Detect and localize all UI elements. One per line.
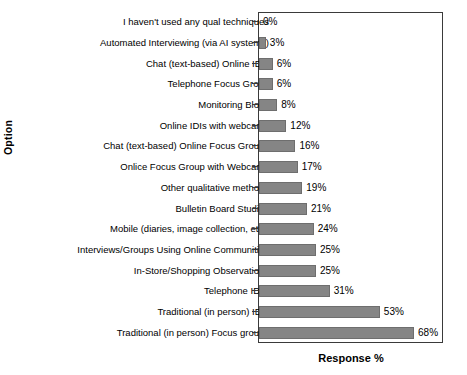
bar [259,182,302,194]
bar-value-label: 53% [384,302,404,322]
axis-tick [252,42,258,43]
bar-chart-figure: Option I haven't used any qual technique… [0,0,467,375]
category-label: Traditional (in person) Focus groups [19,323,269,343]
bar-value-label: 16% [299,136,319,156]
axis-tick [252,311,258,312]
bar-value-label: 6% [277,74,291,94]
axis-tick [252,332,258,333]
category-label: Other qualitative methods [19,178,269,198]
bar-value-label: 17% [302,157,322,177]
category-label: Mobile (diaries, image collection, etc.) [19,219,269,239]
category-label: Monitoring Blogs [19,95,269,115]
bar-row: Traditional (in person) IDIs53% [0,302,467,322]
category-label: In-Store/Shopping Observations [19,261,269,281]
bar-value-label: 31% [334,281,354,301]
category-label: Chat (text-based) Online Focus Groups [19,136,269,156]
bar-value-label: 0% [263,12,277,32]
axis-tick [252,187,258,188]
bar-row: Monitoring Blogs8% [0,95,467,115]
bar [259,327,414,339]
bar-value-label: 3% [270,33,284,53]
category-label: Chat (text-based) Online IDIs [19,54,269,74]
axis-tick [252,145,258,146]
bar [259,140,295,152]
category-label: Onlice Focus Group with Webcams [19,157,269,177]
bar-row: Chat (text-based) Online IDIs6% [0,54,467,74]
category-label: Automated Interviewing (via AI systems) [19,33,269,53]
bar-value-label: 8% [281,95,295,115]
bar-value-label: 24% [318,219,338,239]
bar-row: Other qualitative methods19% [0,178,467,198]
axis-tick [252,228,258,229]
bar-row: Automated Interviewing (via AI systems)3… [0,33,467,53]
category-label: Interviews/Groups Using Online Communiti… [19,240,269,260]
bar [259,244,316,256]
bar-row: Traditional (in person) Focus groups68% [0,323,467,343]
bar-row: Mobile (diaries, image collection, etc.)… [0,219,467,239]
bar [259,58,273,70]
bar-row: In-Store/Shopping Observations25% [0,261,467,281]
bar [259,285,330,297]
bar [259,120,286,132]
bar-row: Telephone Focus Group6% [0,74,467,94]
bar-row: Bulletin Board Studies21% [0,199,467,219]
bar [259,265,316,277]
axis-tick [252,83,258,84]
bar-value-label: 25% [320,261,340,281]
bar-value-label: 21% [311,199,331,219]
bar-row: Online IDIs with webcams12% [0,116,467,136]
bar [259,37,266,49]
bar-row: Interviews/Groups Using Online Communiti… [0,240,467,260]
bar [259,99,277,111]
axis-tick [252,208,258,209]
axis-tick [252,63,258,64]
bar [259,203,307,215]
axis-tick [252,125,258,126]
category-label: Telephone IDIS [19,281,269,301]
bar [259,223,314,235]
axis-tick [252,249,258,250]
bar-value-label: 25% [320,240,340,260]
axis-tick [252,166,258,167]
bar [259,161,298,173]
category-label: I haven't used any qual techniques [19,12,269,32]
bar-row: Telephone IDIS31% [0,281,467,301]
bar-row: Onlice Focus Group with Webcams17% [0,157,467,177]
bar [259,306,380,318]
bar-value-label: 68% [418,323,438,343]
bar-value-label: 12% [290,116,310,136]
category-label: Traditional (in person) IDIs [19,302,269,322]
axis-tick [252,290,258,291]
bar-row: I haven't used any qual techniques0% [0,12,467,32]
bar [259,78,273,90]
axis-tick [252,21,258,22]
bar-value-label: 6% [277,54,291,74]
category-label: Online IDIs with webcams [19,116,269,136]
x-axis-title: Response % [258,352,444,364]
category-label: Telephone Focus Group [19,74,269,94]
chart-title-cropped [150,0,450,3]
category-label: Bulletin Board Studies [19,199,269,219]
bar-value-label: 19% [306,178,326,198]
axis-tick [252,270,258,271]
axis-tick [252,104,258,105]
bar-row: Chat (text-based) Online Focus Groups16% [0,136,467,156]
